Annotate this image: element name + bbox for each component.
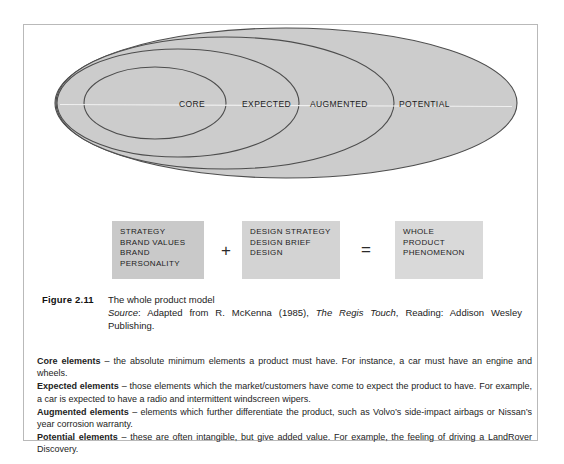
ellipse-label-potential: POTENTIAL xyxy=(399,99,450,109)
figure-number-label: Figure 2.11 xyxy=(42,294,108,305)
box-line: STRATEGY xyxy=(120,227,197,238)
box-line: PRODUCT xyxy=(403,238,476,249)
equation-box-design: DESIGN STRATEGY DESIGN BRIEF DESIGN xyxy=(242,221,340,279)
box-line: BRAND VALUES xyxy=(120,238,197,249)
definition-item-expected: Expected elements – those elements which… xyxy=(37,380,532,405)
plus-operator: + xyxy=(221,242,231,259)
box-line: PHENOMENON xyxy=(403,248,476,259)
caption-row: Figure 2.11 The whole product model Sour… xyxy=(42,293,522,332)
equation-box-strategy: STRATEGY BRAND VALUES BRAND PERSONALITY xyxy=(112,221,204,279)
definition-text: – the absolute minimum elements a produc… xyxy=(37,356,532,378)
caption-title: The whole product model xyxy=(108,293,522,306)
caption-source: Source: Adapted from R. McKenna (1985), … xyxy=(108,306,522,332)
caption-body: The whole product model Source: Adapted … xyxy=(108,293,522,332)
definition-term: Potential elements xyxy=(37,432,118,442)
figure-frame: CORE EXPECTED AUGMENTED POTENTIAL STRATE… xyxy=(23,24,538,441)
definition-term: Core elements xyxy=(37,356,101,366)
definition-term: Augmented elements xyxy=(37,407,129,417)
definition-item-potential: Potential elements – these are often int… xyxy=(37,431,532,456)
whole-product-model-diagram: CORE EXPECTED AUGMENTED POTENTIAL STRATE… xyxy=(24,25,537,263)
equals-operator: = xyxy=(361,241,371,258)
caption-source-mid: : Adapted from R. McKenna (1985), xyxy=(138,307,316,318)
caption-source-book-title: The Regis Touch xyxy=(316,307,396,318)
box-line: PERSONALITY xyxy=(120,259,197,270)
ellipse-label-augmented: AUGMENTED xyxy=(310,99,368,109)
box-line: DESIGN BRIEF xyxy=(250,238,333,249)
equation-box-whole-product: WHOLE PRODUCT PHENOMENON xyxy=(395,221,483,279)
definition-term: Expected elements xyxy=(37,381,119,391)
ellipse-label-expected: EXPECTED xyxy=(242,99,291,109)
definition-list: Core elements – the absolute minimum ele… xyxy=(37,355,532,456)
box-line: WHOLE xyxy=(403,227,476,238)
caption-source-prefix: Source xyxy=(108,307,138,318)
definition-item-core: Core elements – the absolute minimum ele… xyxy=(37,355,532,380)
page-root: CORE EXPECTED AUGMENTED POTENTIAL STRATE… xyxy=(0,0,564,464)
ellipse-label-core: CORE xyxy=(179,99,205,109)
definition-item-augmented: Augmented elements – elements which furt… xyxy=(37,406,532,431)
figure-caption: Figure 2.11 The whole product model Sour… xyxy=(42,293,522,332)
box-line: BRAND xyxy=(120,248,197,259)
box-line: DESIGN STRATEGY xyxy=(250,227,333,238)
box-line: DESIGN xyxy=(250,248,333,259)
